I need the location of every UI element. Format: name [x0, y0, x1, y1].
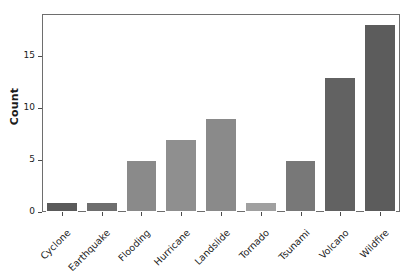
- y-axis-ticks: 051015: [0, 0, 42, 269]
- x-tick-mark: [380, 212, 381, 216]
- y-axis-title: Count: [8, 0, 22, 212]
- x-tick-label: Wildfire: [358, 227, 391, 260]
- x-tick-label: Volcano: [317, 227, 351, 261]
- x-tick-label: Flooding: [116, 227, 152, 263]
- y-tick-label: 10: [24, 102, 35, 113]
- x-tick-label: Landslide: [192, 227, 232, 267]
- x-tick-label: Cyclone: [38, 227, 73, 262]
- y-tick-label: 15: [24, 50, 35, 61]
- x-tick-mark: [340, 212, 341, 216]
- plot-area: [42, 14, 400, 212]
- x-tick-mark: [102, 212, 103, 216]
- y-tick-label: 0: [29, 206, 35, 217]
- x-tick-mark: [181, 212, 182, 216]
- x-tick-mark: [221, 212, 222, 216]
- y-tick-label: 5: [29, 154, 35, 165]
- y-tick-mark: [38, 212, 42, 213]
- y-axis-title-text: Count: [9, 87, 22, 125]
- x-tick-label: Tsunami: [276, 227, 311, 262]
- x-tick-mark: [261, 212, 262, 216]
- x-tick-mark: [141, 212, 142, 216]
- x-tick-mark: [301, 212, 302, 216]
- x-tick-mark: [62, 212, 63, 216]
- x-tick-label: Earthquake: [66, 227, 112, 273]
- x-tick-label: Tornado: [237, 227, 271, 261]
- x-tick-label: Hurricane: [151, 227, 192, 268]
- x-axis-ticks: CycloneEarthquakeFloodingHurricaneLandsl…: [42, 212, 400, 269]
